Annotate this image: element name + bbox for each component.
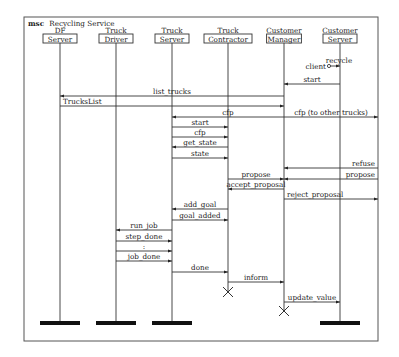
instance-name-line2: Server — [328, 35, 353, 44]
message-update-value: update_value — [284, 293, 340, 304]
instance-name-line2: Driver — [104, 35, 128, 44]
arrowhead-icon — [374, 197, 378, 200]
msc-diagram: msc Recycling Service DFServerTruckDrive… — [0, 0, 399, 357]
arrowhead-icon — [168, 239, 172, 242]
arrowhead-icon — [224, 156, 228, 159]
message-run-job: run_job — [116, 221, 172, 232]
found-message-label: recycle — [326, 56, 352, 65]
instance-cm: CustomerManager — [266, 26, 302, 316]
message-label: propose — [346, 170, 375, 179]
message-label: list_trucks — [153, 87, 191, 96]
message-label: refuse — [352, 159, 375, 168]
message-done: done — [172, 263, 228, 274]
message-state: state — [172, 149, 228, 160]
message-label: : — [143, 242, 145, 251]
arrowhead-icon — [336, 300, 340, 303]
message-label: propose — [241, 170, 270, 179]
instances: DFServerTruckDriverTruckServerTruckContr… — [40, 26, 360, 325]
instance-td: TruckDriver — [96, 26, 136, 325]
instance-name-line2: Manager — [268, 35, 301, 44]
arrowhead-icon — [280, 104, 284, 107]
message-get-state: get_state — [172, 138, 228, 149]
instance-tc: TruckContractor — [204, 26, 252, 297]
arrowhead-icon — [172, 145, 176, 148]
message--: : — [116, 242, 172, 253]
message-label: goal_added — [179, 211, 221, 220]
message-label: cfp (to other trucks) — [294, 108, 368, 117]
message-refuse: refuse — [284, 159, 378, 170]
instance-name-line2: Server — [48, 35, 73, 44]
instance-end-bar — [320, 321, 360, 325]
arrowhead-icon — [116, 228, 120, 231]
messages: startlist_trucksTrucksListcfpcfp (to oth… — [60, 75, 378, 304]
message-label: cfp — [194, 128, 206, 137]
message-start: start — [284, 75, 340, 86]
msc-keyword: msc — [28, 19, 45, 28]
message-reject-proposal: reject_proposal — [284, 190, 378, 201]
message-label: TrucksList — [63, 97, 102, 106]
message-label: start — [191, 118, 208, 127]
message-label: reject_proposal — [287, 190, 344, 199]
message-label: inform — [244, 273, 268, 282]
instance-end-bar — [40, 321, 80, 325]
found-message-source: client — [306, 62, 327, 71]
instance-df: DFServer — [40, 26, 80, 325]
arrowhead-icon — [172, 115, 176, 118]
message-label: done — [191, 263, 209, 272]
message-step-done: step_done — [116, 232, 172, 243]
message-label: get_state — [183, 138, 216, 147]
message-cfp: cfp — [172, 108, 284, 119]
arrowhead-icon — [374, 115, 378, 118]
arrowhead-icon — [284, 166, 288, 169]
arrowhead-icon — [224, 125, 228, 128]
message-label: run_job — [130, 221, 158, 230]
message-inform: inform — [228, 273, 284, 284]
message-label: start — [303, 75, 320, 84]
arrowhead-icon — [168, 259, 172, 262]
arrowhead-icon — [280, 280, 284, 283]
message-propose: propose — [284, 170, 378, 181]
arrowhead-icon — [284, 82, 288, 85]
message-label: add_goal — [184, 200, 217, 209]
message-label: update_value — [288, 293, 336, 302]
instance-end-bar — [96, 321, 136, 325]
message-label: accept_proposal — [226, 180, 286, 189]
message-accept-proposal: accept_proposal — [226, 180, 286, 191]
message-label: cfp — [222, 108, 234, 117]
message-list-trucks: list_trucks — [60, 87, 284, 98]
message-propose: propose — [228, 170, 284, 181]
instance-name-line2: Server — [160, 35, 185, 44]
diagram-title: msc Recycling Service — [28, 19, 114, 28]
message-start: start — [172, 118, 228, 129]
message-label: job_done — [127, 252, 161, 261]
arrowhead-icon — [224, 218, 228, 221]
arrowhead-icon — [168, 249, 172, 252]
message-cfp-to-other-trucks-: cfp (to other trucks) — [284, 108, 378, 119]
arrowhead-icon — [172, 207, 176, 210]
instance-name-line2: Contractor — [208, 35, 248, 44]
arrowhead-icon — [224, 270, 228, 273]
message-label: state — [191, 149, 209, 158]
found-message: recycleclient — [306, 56, 353, 71]
instance-end-bar — [152, 321, 192, 325]
instance-ts: TruckServer — [152, 26, 192, 325]
message-goal-added: goal_added — [172, 211, 228, 222]
arrowhead-icon — [224, 135, 228, 138]
message-cfp: cfp — [172, 128, 228, 139]
message-label: step_done — [126, 232, 163, 241]
message-job-done: job_done — [116, 252, 172, 263]
message-add-goal: add_goal — [172, 200, 228, 211]
